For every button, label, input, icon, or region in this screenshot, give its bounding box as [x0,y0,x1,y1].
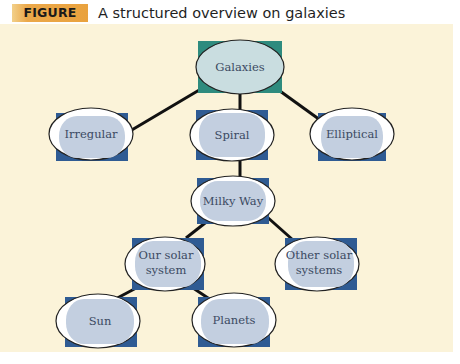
node-label: Milky Way [203,194,264,208]
node-label-line1: Other solar [286,248,353,262]
node-label: Galaxies [215,60,265,74]
node-other-solar-systems: Other solar systems [275,237,359,291]
node-galaxies: Galaxies [196,40,284,94]
node-our-solar-system: Our solar system [125,237,205,291]
node-label: Sun [89,314,112,328]
node-label: Elliptical [326,127,378,141]
node-label: Irregular [64,127,118,141]
galaxy-hierarchy-diagram: Galaxies Irregular Spiral Elliptical Mil… [0,0,460,364]
node-sun: Sun [56,294,140,348]
node-milky-way: Milky Way [191,176,275,226]
node-label: Planets [212,313,255,327]
node-spiral: Spiral [190,109,274,161]
node-elliptical: Elliptical [310,108,394,161]
node-label-line2: system [146,263,187,277]
node-label-line2: systems [296,263,343,277]
edge-milky-way-other-solar [266,216,293,240]
node-label: Spiral [215,128,250,142]
node-planets: Planets [192,293,276,347]
node-label-line1: Our solar [139,248,194,262]
node-irregular: Irregular [49,108,133,161]
